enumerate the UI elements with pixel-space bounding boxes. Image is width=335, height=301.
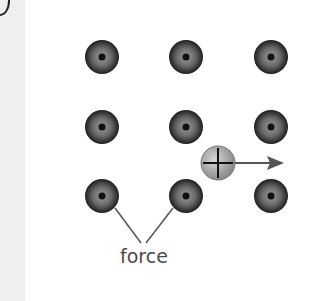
ion-core-dot <box>99 54 106 61</box>
ion-core-dot <box>183 124 190 131</box>
force-pointer-line-left <box>115 208 141 243</box>
force-label: force <box>120 245 168 267</box>
ion-core-dot <box>183 193 190 200</box>
ion-core-dot <box>99 193 106 200</box>
arrow-right-icon <box>235 156 284 170</box>
ion-core-dot <box>183 54 190 61</box>
ion-core-dot <box>268 193 275 200</box>
lattice-ions <box>85 40 288 213</box>
ion-core-dot <box>268 54 275 61</box>
ion-core-dot <box>99 124 106 131</box>
positive-charge <box>201 146 235 180</box>
ion-core-dot <box>268 124 275 131</box>
force-pointer-line-right <box>146 208 173 243</box>
